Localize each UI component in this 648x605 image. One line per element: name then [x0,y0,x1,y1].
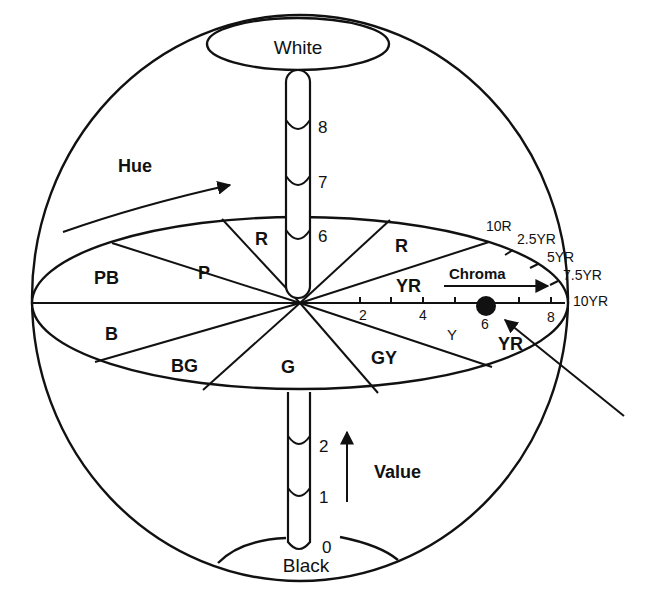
chroma-tick-2: 2 [359,307,367,323]
value-tick-8: 8 [318,118,327,137]
sector-yr-upper: YR [396,276,421,296]
hue-step-5yr: 5YR [547,249,574,265]
value-tick-1: 1 [319,488,328,507]
chroma-label: Chroma [449,265,506,282]
value-axis-lower [288,392,310,549]
chroma-tick-4: 4 [419,307,427,323]
white-label: White [274,37,323,58]
value-tick-2: 2 [319,437,328,456]
caption-cropped [0,596,648,605]
sector-g: G [281,357,295,377]
value-label: Value [374,462,421,482]
sample-point [476,296,496,316]
chroma-tick-8: 8 [547,309,555,325]
hue-step-10yr: 10YR [573,293,608,309]
munsell-diagram: White 8 7 6 2 1 0 Black Value Hue PB [0,0,648,605]
sector-y: Y [447,326,457,343]
sector-yr-lower: YR [498,334,523,354]
value-axis-upper [286,70,310,298]
black-label: Black [283,555,330,576]
value-tick-7: 7 [318,173,327,192]
sector-r-left: R [255,229,268,249]
pointer-arrow [505,320,624,416]
hue-step-10r: 10R [486,218,512,234]
hue-step-7-5yr: 7.5YR [563,267,602,283]
sector-p: P [198,263,210,283]
hue-label: Hue [118,156,152,176]
value-tick-6: 6 [318,227,327,246]
sector-bg: BG [171,356,198,376]
sector-r-right: R [395,236,408,256]
sector-b: B [105,324,118,344]
sector-pb: PB [94,268,119,288]
sector-gy: GY [371,348,397,368]
chroma-tick-6: 6 [481,316,489,332]
hue-step-2-5yr: 2.5YR [517,231,556,247]
